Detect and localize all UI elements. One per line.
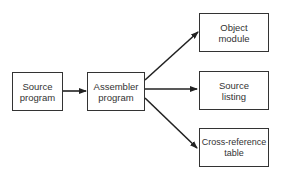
node-object-module: Objectmodule bbox=[199, 13, 269, 52]
node-label: Source bbox=[20, 81, 55, 92]
node-label: Source bbox=[219, 80, 249, 91]
node-cross-reference-table: Cross-referencetable bbox=[199, 128, 269, 167]
node-label: program bbox=[20, 92, 55, 103]
node-label: listing bbox=[219, 91, 249, 102]
node-assembler-program: Assemblerprogram bbox=[87, 72, 145, 111]
node-label: Assembler bbox=[94, 81, 139, 92]
node-label: table bbox=[202, 148, 267, 159]
node-source-listing: Sourcelisting bbox=[199, 71, 269, 110]
node-label: program bbox=[94, 92, 139, 103]
arrow-assembler-to-crossref bbox=[145, 98, 197, 148]
node-source-program: Sourceprogram bbox=[12, 72, 63, 111]
arrow-assembler-to-object bbox=[145, 32, 198, 80]
node-label: module bbox=[218, 33, 249, 44]
node-label: Object bbox=[218, 22, 249, 33]
node-label: Cross-reference bbox=[202, 137, 267, 148]
